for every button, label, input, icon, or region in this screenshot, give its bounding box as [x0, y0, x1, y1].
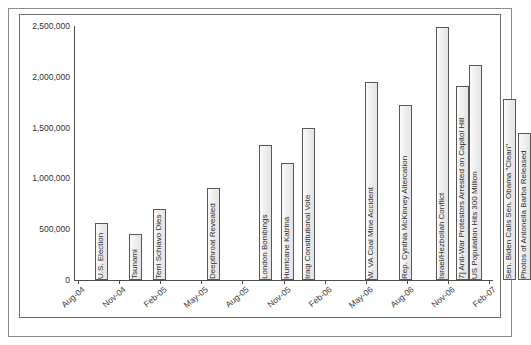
bar-label: W. VA Coal Mine Accident [366, 187, 375, 279]
y-axis-tick-labels: 0500,0001,000,0001,500,0002,000,0002,500… [19, 0, 70, 345]
bar-group: Deepthroat Revealed [207, 26, 220, 280]
bar-label: Deepthroat Revealed [208, 203, 217, 279]
y-tick-label: 1,000,000 [32, 174, 70, 183]
bar-label: London Bombings [260, 215, 269, 280]
x-tick-mark [119, 280, 120, 284]
bar-group: Photos of Antonella Barba Released [518, 26, 531, 280]
bar-group: London Bombings [259, 26, 272, 280]
bar-label: Hurricane Katrina [282, 217, 291, 279]
bar-label: Tsunami [130, 249, 139, 279]
x-tick-mark [489, 280, 490, 284]
bar-group: Hurricane Katrina [281, 26, 294, 280]
x-tick-mark [284, 280, 285, 284]
bar-group: U.S. Election [95, 26, 108, 280]
x-tick-mark [201, 280, 202, 284]
bar-group: Israel/Hezbollah Conflict [436, 26, 449, 280]
bar-label: Sen. Biden Calls Sen. Obama "Clean" [504, 144, 513, 279]
bar-label: U.S. Election [96, 233, 105, 279]
bar-group: Sen. Biden Calls Sen. Obama "Clean" [503, 26, 516, 280]
x-tick-mark [325, 280, 326, 284]
x-tick-mark [366, 280, 367, 284]
bar-group: Terri Schiavo Dies [153, 26, 166, 280]
x-tick-mark [407, 280, 408, 284]
y-tick-label: 0 [65, 276, 70, 285]
bar-group: W. VA Coal Mine Accident [365, 26, 378, 280]
x-tick-mark [160, 280, 161, 284]
y-tick-label: 1,500,000 [32, 123, 70, 132]
y-tick-label: 500,000 [39, 225, 70, 234]
bar-group: Rep. Cynthia McKinney Altercation [399, 26, 412, 280]
bar-label: 7] Anti-War Protestors Arrested on Capit… [457, 117, 466, 279]
bar-group: 7] Anti-War Protestors Arrested on Capit… [456, 26, 469, 280]
y-tick-label: 2,500,000 [32, 22, 70, 31]
bar-group: Tsunami [129, 26, 142, 280]
bar-label: Rep. Cynthia McKinney Altercation [400, 156, 409, 279]
x-tick-mark [78, 280, 79, 284]
bar-group: US Population Hits 300 Million [469, 26, 482, 280]
bar-label: Iraqi Constitutional Vote [303, 195, 312, 280]
bar-label: Israel/Hezbollah Conflict [437, 193, 446, 279]
bar-group: Iraqi Constitutional Vote [302, 26, 315, 280]
bar-label: Terri Schiavo Dies [154, 215, 163, 279]
y-tick-label: 2,000,000 [32, 73, 70, 82]
plot-data-area: U.S. ElectionTsunamiTerri Schiavo DiesDe… [74, 26, 492, 280]
bar-label: US Population Hits 300 Million [470, 171, 479, 279]
bar-label: Photos of Antonella Barba Released [519, 150, 528, 279]
x-tick-mark [448, 280, 449, 284]
